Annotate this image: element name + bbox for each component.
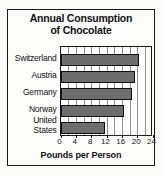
category-label-switzerland: Switzerland bbox=[15, 53, 57, 63]
x-tick-label-16: 16 bbox=[113, 137, 129, 146]
chart-title: Annual Consumption of Chocolate bbox=[9, 13, 153, 36]
bar-austria[interactable] bbox=[61, 71, 136, 83]
category-label-austria: Austria bbox=[31, 70, 56, 80]
bar-germany[interactable] bbox=[61, 88, 133, 100]
chart-figure: Annual Consumption of Chocolate Switzerl… bbox=[0, 0, 163, 176]
x-axis-label: Pounds per Person bbox=[9, 150, 153, 160]
chart-title-line1: Annual Consumption bbox=[30, 12, 133, 24]
category-label-norway: Norway bbox=[29, 104, 57, 114]
x-tick-label-12: 12 bbox=[98, 137, 114, 146]
united-states-line1: United bbox=[33, 115, 56, 125]
plot-area: Switzerland Austria Germany Norway Unite… bbox=[60, 46, 152, 136]
bar-norway[interactable] bbox=[61, 105, 125, 117]
x-tick-label-0: 0 bbox=[52, 137, 68, 146]
category-label-germany: Germany bbox=[23, 87, 57, 97]
x-tick-label-20: 20 bbox=[128, 137, 144, 146]
bar-united-states[interactable] bbox=[61, 122, 106, 134]
chart-title-line2: of Chocolate bbox=[9, 25, 153, 37]
bar-switzerland[interactable] bbox=[61, 54, 140, 66]
x-tick-label-4: 4 bbox=[67, 137, 83, 146]
gridline bbox=[145, 47, 146, 135]
united-states-line2: States bbox=[33, 126, 56, 136]
x-tick-label-24: 24 bbox=[144, 137, 160, 146]
category-label-united-states: UnitedStates bbox=[33, 116, 56, 135]
x-tick-label-8: 8 bbox=[82, 137, 98, 146]
